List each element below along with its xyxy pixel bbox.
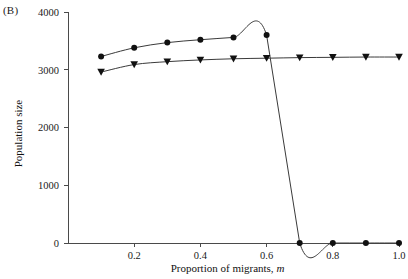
- x-axis: 0.20.40.60.81.0: [68, 243, 406, 261]
- population-size-line-chart: 01000200030004000 0.20.40.60.81.0 Propor…: [0, 0, 408, 279]
- data-point-circle-0.8: [330, 240, 336, 246]
- x-tick-label-1.0: 1.0: [392, 250, 405, 261]
- series-line-triangle-series: [101, 57, 399, 72]
- y-tick-label-2000: 2000: [38, 122, 59, 133]
- data-point-circle-0.9: [363, 240, 369, 246]
- y-tick-label-1000: 1000: [38, 180, 59, 191]
- figure-panel-b: (B) 01000200030004000 0.20.40.60.81.0 Pr…: [0, 0, 408, 279]
- data-series-group: [97, 21, 403, 258]
- data-point-circle-0.1: [98, 53, 104, 59]
- x-tick-label-0.2: 0.2: [128, 250, 141, 261]
- data-point-circle-0.3: [164, 40, 170, 46]
- data-point-circle-1: [396, 240, 402, 246]
- data-point-circle-0.6: [264, 32, 270, 38]
- data-point-circle-0.5: [231, 34, 237, 40]
- data-point-circle-0.4: [197, 37, 203, 43]
- y-tick-label-4000: 4000: [38, 7, 59, 18]
- x-axis-title: Proportion of migrants, m: [171, 262, 285, 274]
- series-circle-series: [98, 21, 402, 258]
- series-line-circle-series: [101, 21, 399, 258]
- x-tick-label-0.6: 0.6: [260, 250, 273, 261]
- y-tick-label-3000: 3000: [38, 65, 59, 76]
- x-tick-label-0.8: 0.8: [326, 250, 339, 261]
- series-triangle-series: [97, 54, 403, 76]
- y-axis: 01000200030004000: [38, 7, 68, 249]
- data-point-triangle-0.1: [97, 69, 105, 76]
- y-tick-label-0: 0: [54, 238, 59, 249]
- x-tick-label-0.4: 0.4: [194, 250, 208, 261]
- y-axis-title: Population size: [12, 100, 24, 168]
- data-point-circle-0.7: [297, 240, 303, 246]
- data-point-circle-0.2: [131, 45, 137, 51]
